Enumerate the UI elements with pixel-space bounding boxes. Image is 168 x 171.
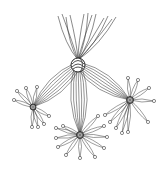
spoke-ring [103, 113, 106, 116]
spoke-ring [93, 155, 96, 158]
spoke-ring [64, 153, 67, 156]
spoke-ring [54, 126, 57, 129]
spoke-ring [136, 78, 139, 81]
spoke-loop [80, 134, 107, 137]
spoke-ring [108, 120, 111, 123]
spoke-ring [120, 131, 123, 134]
spoke-ring [147, 86, 150, 89]
spoke-ring [36, 125, 39, 128]
top-strand [78, 19, 112, 60]
top-strand [70, 15, 78, 60]
spoke-loop [80, 135, 95, 157]
spoke-ring [126, 76, 129, 79]
spoke-ring [105, 135, 108, 138]
spoke-ring [15, 89, 18, 92]
spoke-ring [24, 86, 27, 89]
spoke-ring [56, 145, 59, 148]
node-knot [30, 104, 36, 110]
node-knot [127, 97, 134, 104]
knot-illustration [0, 0, 168, 171]
bundle-strand [33, 65, 78, 107]
spoke-ring [96, 114, 99, 117]
bundle-strand [76, 65, 80, 135]
spoke-ring [102, 146, 105, 149]
spoke-loop [80, 135, 104, 148]
spoke-ring [42, 122, 45, 125]
spoke-loop [105, 100, 130, 115]
spoke-ring [152, 99, 155, 102]
knot-drawing [0, 0, 168, 171]
node-knot [77, 132, 84, 139]
spoke-ring [146, 120, 149, 123]
bundle-strand [80, 62, 130, 100]
spoke-ring [35, 85, 38, 88]
spoke-ring [102, 124, 105, 127]
spoke-loop [130, 100, 148, 122]
spoke-ring [54, 136, 57, 139]
bundle-strand [33, 63, 76, 107]
spoke-ring [12, 98, 15, 101]
spoke-ring [126, 130, 129, 133]
spoke-ring [30, 125, 33, 128]
spoke-ring [47, 114, 50, 117]
spoke-ring [114, 126, 117, 129]
spoke-loop [80, 116, 98, 135]
spoke-ring [78, 156, 81, 159]
spoke-ring [61, 124, 64, 127]
